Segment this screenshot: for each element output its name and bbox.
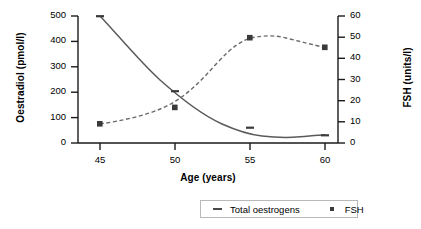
chart-legend: Total oestrogens FSH <box>200 200 358 218</box>
x-axis-ticks <box>100 143 325 150</box>
series-markers-total-oestrogens <box>96 15 329 136</box>
y-axis-left-ticks <box>71 16 78 143</box>
y-right-tick-label-60: 60 <box>350 9 378 20</box>
y-axis-right-title: FSH (units/l) <box>402 8 413 148</box>
series-line-total-oestrogens <box>100 16 325 137</box>
legend-square-marker-icon <box>326 203 340 215</box>
x-tick-label-45: 45 <box>85 154 115 165</box>
y-left-tick-label-500: 500 <box>38 9 66 20</box>
legend-label-fsh: FSH <box>345 204 364 215</box>
y-right-tick-label-20: 20 <box>350 94 378 105</box>
y-left-tick-label-300: 300 <box>38 60 66 71</box>
y-right-tick-label-40: 40 <box>350 51 378 62</box>
legend-item-fsh: FSH <box>326 203 364 215</box>
x-tick-label-50: 50 <box>160 154 190 165</box>
y-left-tick-label-400: 400 <box>38 34 66 45</box>
legend-label-total-oestrogens: Total oestrogens <box>230 204 300 215</box>
y-axis-right-ticks <box>338 16 345 143</box>
x-axis-title: Age (years) <box>78 172 338 183</box>
x-tick-label-60: 60 <box>310 154 340 165</box>
y-left-tick-label-0: 0 <box>38 136 66 147</box>
x-tick-label-55: 55 <box>235 154 265 165</box>
y-right-tick-label-50: 50 <box>350 30 378 41</box>
series-line-fsh <box>100 36 325 124</box>
legend-dash-marker-icon <box>211 203 225 215</box>
y-left-tick-label-200: 200 <box>38 85 66 96</box>
y-axis-left-title: Oestradiol (pmol/l) <box>15 8 26 148</box>
y-right-tick-label-0: 0 <box>350 136 378 147</box>
y-right-tick-label-10: 10 <box>350 115 378 126</box>
series-markers-fsh <box>97 35 328 127</box>
chart-figure: Oestradiol (pmol/l) FSH (units/l) Age (y… <box>0 0 421 229</box>
y-left-tick-label-100: 100 <box>38 111 66 122</box>
legend-item-total-oestrogens: Total oestrogens <box>211 203 300 215</box>
y-right-tick-label-30: 30 <box>350 73 378 84</box>
